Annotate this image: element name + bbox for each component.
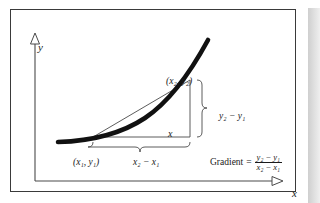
curve-path <box>58 40 208 142</box>
figure-frame: y x (x₂, y₂) (x₁, y₁) y₂ − y₁ x₂ − x₁ x … <box>10 9 296 192</box>
gradient-word: Gradient <box>210 157 243 167</box>
gradient-numerator: y₂ − y₁ <box>255 153 282 162</box>
run-brace <box>88 142 190 152</box>
rise-brace <box>197 80 207 137</box>
gradient-formula: Gradient = y₂ − y₁ x₂ − x₁ <box>210 153 282 172</box>
x-axis-label: x <box>292 187 297 199</box>
gradient-fraction: y₂ − y₁ x₂ − x₁ <box>255 153 282 172</box>
point-2-label: (x₂, y₂) <box>166 76 192 86</box>
run-label: x₂ − x₁ <box>133 157 159 167</box>
chord-length-label: x <box>168 128 172 139</box>
point-1-label: (x₁, y₁) <box>73 157 99 167</box>
x-axis-arrowhead <box>272 177 283 186</box>
gradient-denominator: x₂ − x₁ <box>255 162 282 172</box>
page: y x (x₂, y₂) (x₁, y₁) y₂ − y₁ x₂ − x₁ x … <box>0 0 320 203</box>
page-edge-shadow <box>308 8 320 203</box>
gradient-equals-sign: = <box>246 157 251 167</box>
y-axis-label: y <box>38 41 43 53</box>
rise-label: y₂ − y₁ <box>219 111 245 121</box>
